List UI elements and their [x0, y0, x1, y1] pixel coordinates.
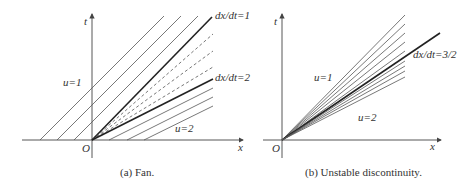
origin-label-a: O [82, 142, 90, 154]
origin-label-b: O [272, 142, 280, 154]
fan-boundary-dxdt-1 [92, 17, 212, 140]
discontinuity-label: dx/dt=3/2 [413, 48, 457, 60]
region-label-u2-b: u=2 [358, 111, 377, 123]
characteristic-u2-line [282, 61, 405, 140]
characteristic-u2-line [282, 71, 405, 140]
caption-a: (a) Fan. [120, 166, 154, 179]
t-axis-label-b: t [274, 15, 278, 27]
region-label-u1-a: u=1 [63, 76, 81, 88]
region-label-u2-a: u=2 [175, 122, 194, 134]
fan-line-dashed [92, 51, 213, 140]
boundary-label-dxdt-2: dx/dt=2 [215, 71, 250, 83]
panel-b-unstable-discontinuity: t x O u=1 u=2 dx/dt=3/2 (b) Unstable dis… [263, 14, 457, 179]
fan-boundary-dxdt-2 [92, 79, 213, 140]
caption-b: (b) Unstable discontinuity. [305, 166, 422, 179]
boundary-label-dxdt-1: dx/dt=1 [215, 9, 250, 21]
characteristic-u1-line [282, 24, 405, 140]
x-axis-label-a: x [237, 141, 243, 153]
figure-canvas: t x O u=1 u=2 dx/dt=1 dx/dt=2 (a) Fan. t… [0, 0, 475, 183]
characteristic-u2-line [127, 97, 213, 140]
x-axis-label-b: x [429, 140, 435, 152]
t-axis-label-a: t [84, 15, 88, 27]
characteristic-u1-line [282, 42, 405, 140]
panel-a-fan: t x O u=1 u=2 dx/dt=1 dx/dt=2 (a) Fan. [22, 9, 250, 179]
region-label-u1-b: u=1 [314, 71, 332, 83]
